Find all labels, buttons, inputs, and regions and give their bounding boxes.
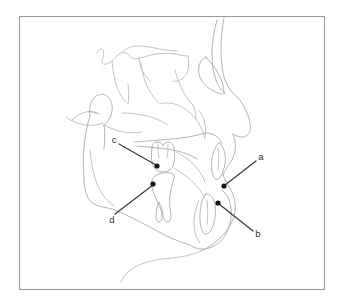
sigmoid-notch xyxy=(104,125,142,133)
nasal-bone-outline xyxy=(199,57,222,94)
soft-tissue-neck-line xyxy=(121,251,201,282)
leader-line-d xyxy=(115,185,153,214)
soft-palate-sketch xyxy=(128,84,129,104)
lower-molar-outline xyxy=(152,173,175,222)
upper-molar-mesial-root xyxy=(158,144,159,158)
cephalometric-figure: a b c d xyxy=(0,0,343,302)
lower-incisor-root-line xyxy=(207,200,208,225)
label-d: d xyxy=(109,214,114,225)
landmark-dot-a[interactable] xyxy=(221,183,226,188)
annotation-a[interactable]: a xyxy=(221,151,264,189)
label-a: a xyxy=(258,151,264,162)
condyle-outline xyxy=(90,94,113,125)
leader-line-a xyxy=(225,161,256,185)
soft-tissue-nose-profile xyxy=(233,93,250,137)
nasal-floor-line xyxy=(122,113,168,125)
coronoid-process xyxy=(72,112,97,120)
condylar-neck-anterior xyxy=(104,125,105,149)
landmark-dot-d[interactable] xyxy=(150,181,155,186)
nasal-cavity-posterior xyxy=(175,70,193,105)
upper-molar-outline xyxy=(151,142,174,172)
annotation-group: a b c d xyxy=(109,134,264,239)
frontal-sinus-inner xyxy=(212,20,225,93)
orbit-inferior-rim xyxy=(141,62,159,103)
label-b: b xyxy=(255,228,260,239)
symphysis-inner-contour xyxy=(194,200,200,243)
maxillary-tuberosity xyxy=(176,152,205,182)
orbital-floor-line xyxy=(123,46,177,52)
label-c: c xyxy=(112,134,117,145)
landmark-dot-b[interactable] xyxy=(215,200,220,205)
leader-line-b xyxy=(219,204,253,231)
maxillary-sinus-outline xyxy=(160,103,205,139)
anterior-nasal-spine xyxy=(205,133,222,144)
palatal-plane-line xyxy=(135,133,205,142)
mandible-gonial-angle xyxy=(84,177,103,207)
tracing-canvas: a b c d xyxy=(0,0,343,302)
sphenoid-upper-curve xyxy=(139,57,150,81)
mandibular-canal-line xyxy=(66,117,103,125)
mandibular-symphysis xyxy=(190,190,231,249)
mandible-inner-border xyxy=(90,150,114,206)
landmark-dot-c[interactable] xyxy=(154,163,159,168)
skull-tracing-group xyxy=(66,18,250,282)
forehead-profile xyxy=(221,18,233,93)
sella-contour xyxy=(173,56,189,81)
annotation-c[interactable]: c xyxy=(112,134,160,169)
upper-molar-distal-root xyxy=(167,144,168,158)
annotation-b[interactable]: b xyxy=(215,200,260,238)
figure-frame xyxy=(20,17,325,290)
posterior-alveolar-line xyxy=(174,168,204,197)
zygomatic-arch-line xyxy=(112,61,126,102)
upper-incisor-root-line xyxy=(218,148,219,170)
